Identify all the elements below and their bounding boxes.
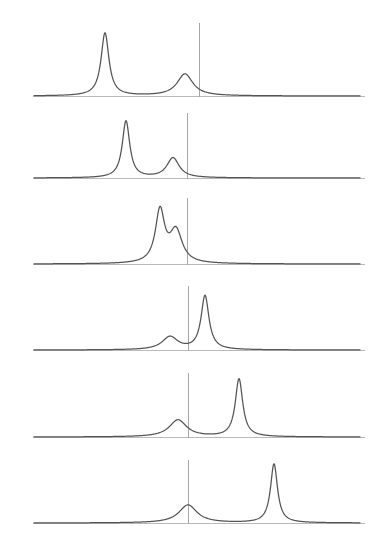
spectrum-panel-6 (0, 0, 379, 557)
spectra-figure (0, 0, 379, 557)
spectrum-curve-6 (34, 464, 360, 523)
